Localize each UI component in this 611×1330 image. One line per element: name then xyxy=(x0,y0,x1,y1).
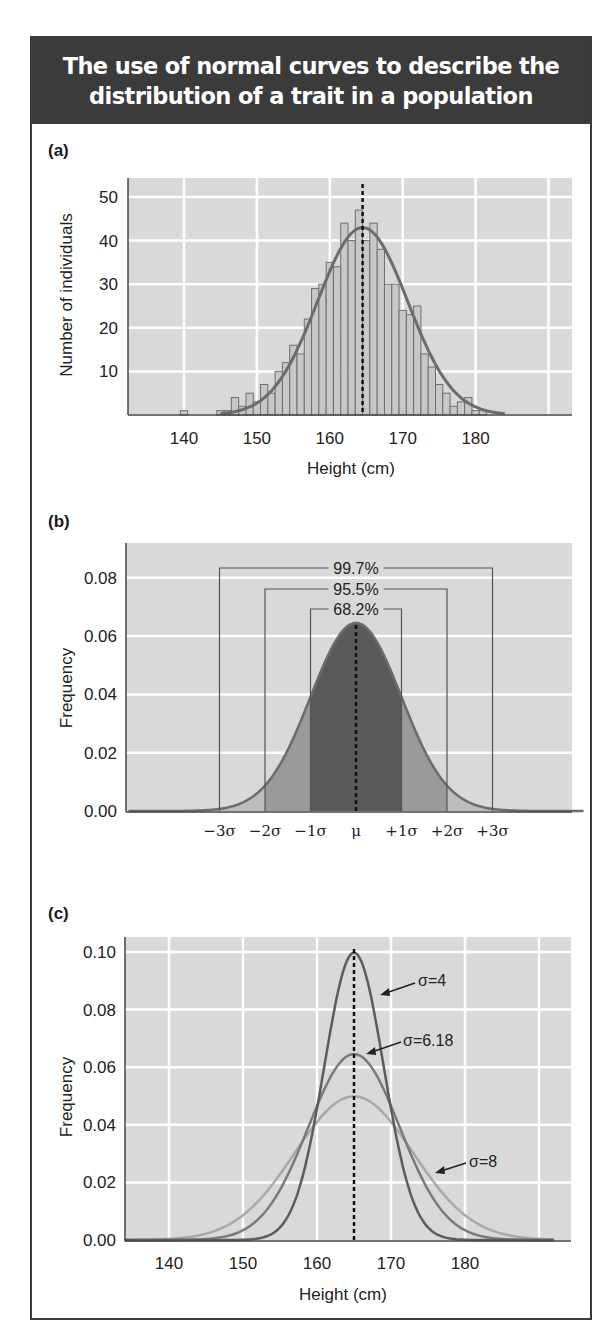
y-tick-label: 40 xyxy=(99,232,118,251)
panel-a-histogram: (a) 1020304050 140150160170180 Number of… xyxy=(48,141,572,478)
x-tick-label: 170 xyxy=(389,429,417,448)
x-tick-label: 140 xyxy=(155,1254,183,1273)
x-tick-label: 160 xyxy=(303,1254,331,1273)
y-tick-label: 0.00 xyxy=(84,802,117,821)
panel-c-x-axis-title: Height (cm) xyxy=(299,1285,387,1304)
y-tick-label: 10 xyxy=(99,362,118,381)
histogram-bar xyxy=(428,367,435,415)
histogram-bar xyxy=(348,241,355,415)
label-sigma-8: σ=8 xyxy=(469,1153,497,1170)
y-tick-label: 0.04 xyxy=(83,1116,116,1135)
panel-a-x-axis-title: Height (cm) xyxy=(307,459,395,478)
histogram-bar xyxy=(384,284,391,415)
label-sigma-4: σ=4 xyxy=(418,972,446,989)
y-tick-label: 20 xyxy=(99,319,118,338)
histogram-bar xyxy=(457,402,464,415)
panel-b-y-tick-labels: 0.000.020.040.060.08 xyxy=(84,569,117,821)
histogram-bar xyxy=(377,249,384,415)
y-tick-label: 0.10 xyxy=(83,943,116,962)
panel-c-y-tick-labels: 0.000.020.040.060.080.10 xyxy=(83,943,116,1250)
sigma-tick-label: μ xyxy=(351,822,361,840)
histogram-bar xyxy=(370,223,377,415)
histogram-bar xyxy=(392,284,399,415)
y-tick-label: 50 xyxy=(99,188,118,207)
y-tick-label: 0.00 xyxy=(83,1231,116,1250)
x-tick-label: 170 xyxy=(377,1254,405,1273)
histogram-bar xyxy=(326,262,333,415)
histogram-bar xyxy=(333,267,340,415)
y-tick-label: 30 xyxy=(99,275,118,294)
panel-b-sigma-tick-labels: −3σ−2σ−1σμ+1σ+2σ+3σ xyxy=(203,822,508,840)
panel-b-label: (b) xyxy=(48,512,70,531)
histogram-bar xyxy=(406,315,413,415)
x-tick-label: 150 xyxy=(229,1254,257,1273)
x-tick-label: 140 xyxy=(170,429,198,448)
panel-b-y-axis-title: Frequency xyxy=(57,647,76,728)
sigma-tick-label: −3σ xyxy=(203,822,235,840)
label-sigma-6-18: σ=6.18 xyxy=(403,1032,453,1049)
sigma-tick-label: −2σ xyxy=(249,822,281,840)
panel-c-plot-area xyxy=(125,937,571,1240)
x-tick-label: 180 xyxy=(451,1254,479,1273)
y-tick-label: 0.02 xyxy=(84,744,117,763)
percentage-label: 95.5% xyxy=(333,581,378,598)
panel-b-standard-normal: (b) 99.7%95.5%68.2% 0.000.020.040.060.08… xyxy=(48,512,584,840)
histogram-bar xyxy=(450,406,457,415)
histogram-bar xyxy=(443,393,450,415)
panel-c-x-tick-labels: 140150160170180 xyxy=(155,1254,479,1273)
panel-a-y-axis-title: Number of individuals xyxy=(57,213,76,376)
histogram-bar xyxy=(319,284,326,415)
y-tick-label: 0.06 xyxy=(83,1058,116,1077)
panel-a-y-tick-labels: 1020304050 xyxy=(99,188,118,381)
histogram-bar xyxy=(436,384,443,415)
y-tick-label: 0.04 xyxy=(84,685,117,704)
histogram-bar xyxy=(297,354,304,415)
sigma-tick-label: −1σ xyxy=(294,822,326,840)
percentage-label: 99.7% xyxy=(333,560,378,577)
histogram-bar xyxy=(268,393,275,415)
panel-c-y-axis-title: Frequency xyxy=(57,1056,76,1137)
sigma-tick-label: +1σ xyxy=(385,822,417,840)
figure-canvas: (a) 1020304050 140150160170180 Number of… xyxy=(0,0,611,1330)
y-tick-label: 0.06 xyxy=(84,627,117,646)
sigma-tick-label: +2σ xyxy=(431,822,463,840)
x-tick-label: 180 xyxy=(461,429,489,448)
percentage-label: 68.2% xyxy=(333,601,378,618)
sigma-tick-label: +3σ xyxy=(476,822,508,840)
panel-a-x-tick-labels: 140150160170180 xyxy=(170,429,490,448)
y-tick-label: 0.08 xyxy=(83,1001,116,1020)
panel-c-label: (c) xyxy=(48,904,69,923)
panel-c-varying-sd: (c) 0.000.020.040.060.080.10 14015016017… xyxy=(48,904,571,1304)
histogram-bar xyxy=(399,310,406,415)
panel-a-label: (a) xyxy=(48,141,69,160)
x-tick-label: 150 xyxy=(243,429,271,448)
x-tick-label: 160 xyxy=(316,429,344,448)
y-tick-label: 0.02 xyxy=(83,1173,116,1192)
histogram-bar xyxy=(341,223,348,415)
y-tick-label: 0.08 xyxy=(84,569,117,588)
histogram-bar xyxy=(421,354,428,415)
